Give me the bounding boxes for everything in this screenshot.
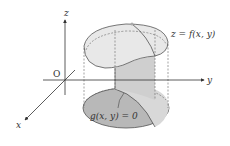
z-axis-label: z (63, 8, 69, 18)
constraint-label: g(x, y) = 0 (90, 111, 138, 121)
constrained-surface-diagram: z y x O z = f(x, y) g(x, y) = 0 (0, 0, 230, 146)
y-axis-label: y (206, 75, 213, 85)
surface-top (84, 24, 168, 68)
x-axis (25, 70, 75, 120)
x-axis-label: x (16, 120, 21, 130)
origin-label: O (53, 69, 60, 79)
surface-label: z = f(x, y) (170, 29, 216, 39)
